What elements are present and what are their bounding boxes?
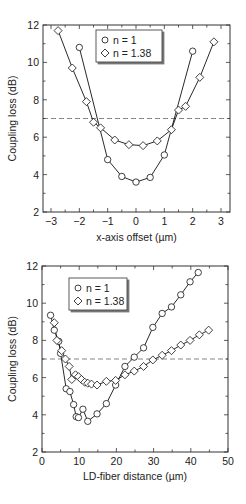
diamond-marker [210,38,218,46]
y-tick-label: 10 [26,297,38,309]
x-axis-label: x-axis offset (µm) [96,231,177,243]
circle-marker [195,269,201,275]
y-tick-label: 12 [27,19,39,31]
y-axis-label: Coupling loss (dB) [6,316,18,402]
circle-marker [187,279,193,285]
diamond-marker [195,331,203,339]
circle-marker [178,292,184,298]
circle-marker [189,48,195,54]
x-tick-label: 1 [161,215,167,227]
x-tick-label: 3 [218,215,224,227]
diamond-marker [65,362,73,370]
diamond-marker [68,64,76,72]
circle-marker [75,414,81,420]
diamond-marker [153,137,161,145]
x-tick-label: −2 [73,215,85,227]
x-tick-label: 0 [39,455,45,467]
circle-marker [103,400,109,406]
y-tick-label: 6 [32,372,38,384]
y-axis-label: Coupling loss (dB) [6,76,18,162]
circle-marker [147,174,153,180]
circle-marker [76,44,82,50]
diamond-marker [196,73,204,81]
circle-marker [80,406,86,412]
y-tick-label: 8 [33,94,39,106]
legend-label-n138: n = 1.38 [86,295,124,307]
y-tick-label: 4 [32,409,38,421]
circle-marker [51,327,57,333]
series-line-n1 [79,47,192,182]
circle-marker [122,363,128,369]
legend-circle-icon [102,37,108,43]
x-tick-label: 40 [185,455,197,467]
diamond-marker [177,341,185,349]
y-tick-label: 10 [27,56,39,68]
circle-marker [70,401,76,407]
x-tick-label: 20 [111,455,123,467]
diamond-marker [125,141,133,149]
circle-marker [133,179,139,185]
diamond-marker [140,362,148,370]
circle-marker [85,418,91,424]
diamond-marker [158,351,166,359]
circle-marker [131,354,137,360]
legend-label-n1: n = 1 [86,282,110,294]
diamond-marker [90,118,98,126]
y-tick-label: 4 [33,169,39,181]
circle-marker [94,411,100,417]
circle-marker [104,156,110,162]
legend-label-n1: n = 1 [113,34,137,46]
y-tick-label: 12 [26,260,38,272]
circle-marker [119,173,125,179]
diamond-marker [54,27,62,35]
circle-marker [67,388,73,394]
x-tick-label: 30 [148,455,160,467]
diamond-marker [182,102,190,110]
y-tick-label: 8 [32,334,38,346]
x-tick-label: −1 [102,215,114,227]
x-tick-label: 0 [133,215,139,227]
chart-x-offset: −3−2−1012324681012 n = 1 n = 1.38 x-axis… [6,19,230,243]
diamond-marker [149,356,157,364]
diamond-marker [167,347,175,355]
diamond-marker [102,377,110,385]
x-tick-label: −3 [45,215,57,227]
x-axis-label: LD-fiber distance (µm) [83,470,187,482]
y-tick-label: 2 [33,206,39,218]
diamond-marker [82,98,90,106]
diamond-marker [205,326,213,334]
diamond-marker [186,336,194,344]
circle-marker [159,310,165,316]
circle-marker [161,152,167,158]
axis-ticks: 0102030405024681012 [26,260,234,467]
circle-marker [47,312,53,318]
x-tick-label: 50 [222,455,234,467]
circle-marker [140,345,146,351]
x-tick-label: 2 [190,215,196,227]
legend-circle-icon [75,285,81,291]
diamond-marker [130,367,138,375]
y-tick-label: 6 [33,131,39,143]
diamond-marker [167,126,175,134]
diamond-marker [93,381,101,389]
circle-marker [150,324,156,330]
circle-marker [168,304,174,310]
chart-ld-fiber-distance: 0102030405024681012 n = 1 n = 1.38 LD-fi… [6,260,234,482]
y-tick-label: 2 [32,446,38,458]
x-tick-label: 10 [73,455,85,467]
legend-label-n138: n = 1.38 [113,47,151,59]
figure: −3−2−1012324681012 n = 1 n = 1.38 x-axis… [0,0,246,504]
diamond-marker [139,142,147,150]
